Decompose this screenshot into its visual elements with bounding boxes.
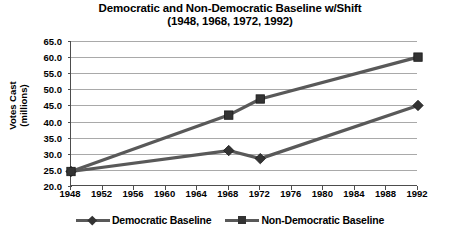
chart-container: Democratic and Non-Democratic Baseline w… bbox=[0, 0, 460, 231]
legend-item[interactable]: Democratic Baseline bbox=[76, 214, 212, 226]
legend-item[interactable]: Non-Democratic Baseline bbox=[225, 214, 384, 226]
diamond-marker bbox=[413, 100, 423, 110]
y-axis-tick-label: 30.0 bbox=[0, 149, 66, 158]
square-marker bbox=[414, 53, 422, 61]
series-line bbox=[71, 105, 418, 171]
square-marker bbox=[238, 216, 246, 224]
legend-swatch bbox=[76, 214, 110, 226]
chart-title-line1: Democratic and Non-Democratic Baseline w… bbox=[99, 2, 362, 14]
square-marker bbox=[225, 111, 233, 119]
plot-area bbox=[70, 41, 417, 186]
chart-legend: Democratic BaselineNon-Democratic Baseli… bbox=[0, 212, 460, 228]
y-axis-tick-label: 60.0 bbox=[0, 53, 66, 62]
x-axis-tick-label: 1992 bbox=[397, 188, 437, 199]
y-axis-tick-label: 55.0 bbox=[0, 69, 66, 78]
legend-label: Democratic Baseline bbox=[112, 215, 212, 226]
y-axis-tick-label: 45.0 bbox=[0, 101, 66, 110]
y-axis-tick-label: 65.0 bbox=[0, 37, 66, 46]
y-axis-tick-label: 40.0 bbox=[0, 117, 66, 126]
x-axis-labels: 1948195219561960196419681972197619801984… bbox=[0, 188, 460, 204]
diamond-marker bbox=[255, 153, 265, 163]
legend-swatch bbox=[225, 214, 259, 226]
y-axis-tick-label: 50.0 bbox=[0, 85, 66, 94]
legend-label: Non-Democratic Baseline bbox=[261, 215, 384, 226]
chart-title: Democratic and Non-Democratic Baseline w… bbox=[0, 2, 460, 28]
diamond-marker bbox=[88, 215, 97, 224]
square-marker bbox=[67, 167, 75, 175]
y-axis-tick-label: 35.0 bbox=[0, 133, 66, 142]
square-marker bbox=[256, 95, 264, 103]
series-layer bbox=[71, 41, 418, 186]
y-axis-tick-label: 25.0 bbox=[0, 165, 66, 174]
chart-title-line2: (1948, 1968, 1972, 1992) bbox=[0, 15, 460, 28]
diamond-marker bbox=[224, 145, 234, 155]
